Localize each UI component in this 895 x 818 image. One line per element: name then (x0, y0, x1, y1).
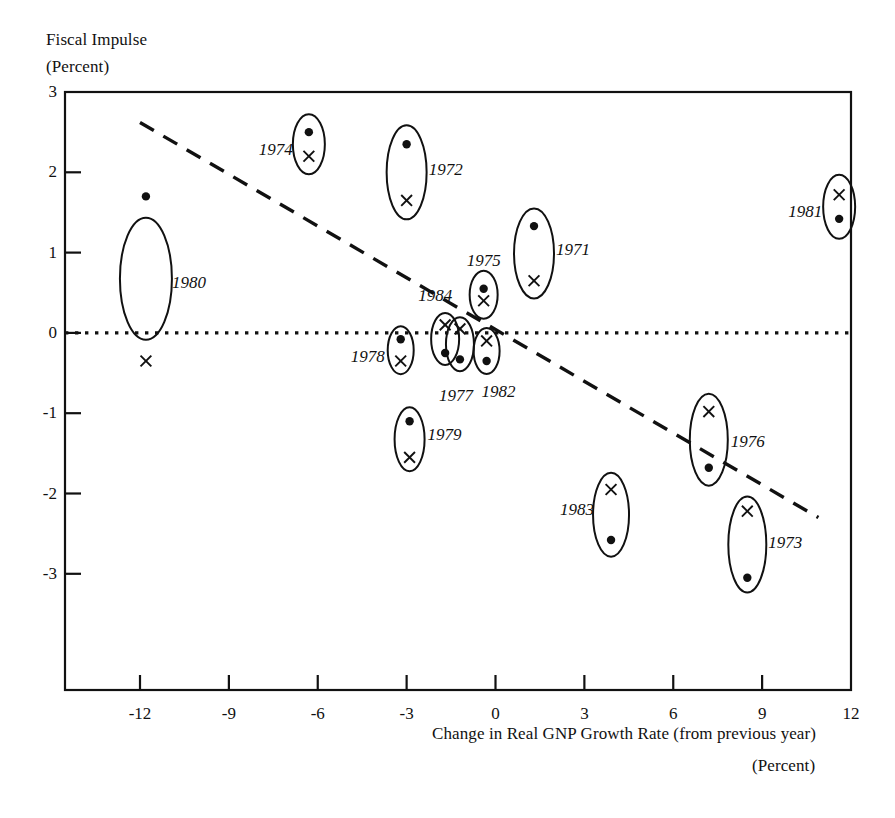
x-tick-label: -3 (387, 704, 427, 724)
dot-marker (456, 355, 464, 363)
year-ellipse (395, 407, 425, 471)
year-ellipse (120, 218, 172, 340)
year-label-1973: 1973 (768, 533, 802, 553)
dot-marker (607, 536, 615, 544)
data-group-1975 (470, 271, 498, 319)
year-label-1975: 1975 (467, 251, 501, 271)
dot-marker (835, 215, 843, 223)
year-label-1972: 1972 (429, 160, 463, 180)
year-label-1981: 1981 (788, 202, 822, 222)
x-tick-label: -9 (209, 704, 249, 724)
dot-marker (479, 285, 487, 293)
x-tick-label: 0 (476, 704, 516, 724)
x-tick-label: 6 (653, 704, 693, 724)
year-label-1983: 1983 (560, 500, 594, 520)
data-group-1979 (395, 407, 425, 471)
dot-marker (482, 357, 490, 365)
dot-marker (405, 417, 413, 425)
year-label-1979: 1979 (428, 425, 462, 445)
y-tick-label: -2 (31, 484, 57, 504)
dot-marker (142, 192, 150, 200)
dot-marker (743, 574, 751, 582)
dot-marker (530, 222, 538, 230)
x-axis-title-line2: (Percent) (752, 756, 815, 776)
year-label-1971: 1971 (556, 240, 590, 260)
year-label-1977: 1977 (439, 386, 473, 406)
data-group-1974 (293, 114, 325, 174)
y-tick-label: 0 (31, 323, 57, 343)
year-label-1978: 1978 (351, 347, 385, 367)
x-axis-title-line1: Change in Real GNP Growth Rate (from pre… (432, 724, 816, 744)
trend-line (140, 123, 818, 518)
data-group-1973 (728, 496, 766, 592)
scatter-chart: Fiscal Impulse (Percent) 3210-1-2-3-12-9… (0, 0, 895, 818)
dot-marker (705, 464, 713, 472)
year-label-1980: 1980 (172, 273, 206, 293)
data-group-1972 (387, 125, 427, 219)
x-tick-label: 12 (831, 704, 871, 724)
year-ellipse (388, 326, 414, 374)
y-tick-label: 2 (31, 162, 57, 182)
year-ellipse (387, 125, 427, 219)
y-tick-label: -1 (31, 403, 57, 423)
y-tick-label: 3 (31, 82, 57, 102)
year-label-1976: 1976 (731, 432, 765, 452)
x-tick-label: 9 (742, 704, 782, 724)
year-label-1974: 1974 (259, 140, 293, 160)
year-ellipse (293, 114, 325, 174)
year-label-1982: 1982 (482, 382, 516, 402)
plot-area (0, 0, 895, 818)
data-group-1983 (593, 473, 629, 557)
y-tick-label: -3 (31, 564, 57, 584)
dot-marker (305, 128, 313, 136)
year-ellipse (474, 328, 500, 374)
data-group-1978 (388, 326, 414, 374)
y-tick-label: 1 (31, 243, 57, 263)
dot-marker (402, 140, 410, 148)
x-tick-label: 3 (564, 704, 604, 724)
data-group-1976 (690, 394, 728, 486)
x-tick-label: -12 (120, 704, 160, 724)
dot-marker (397, 335, 405, 343)
year-label-1984: 1984 (418, 286, 452, 306)
data-group-1982 (474, 328, 500, 374)
data-group-1971 (514, 208, 554, 298)
data-group-1980 (120, 192, 172, 366)
data-group-1984 (431, 313, 459, 365)
year-ellipse (470, 271, 498, 319)
data-group-1977 (446, 317, 474, 371)
x-tick-label: -6 (298, 704, 338, 724)
